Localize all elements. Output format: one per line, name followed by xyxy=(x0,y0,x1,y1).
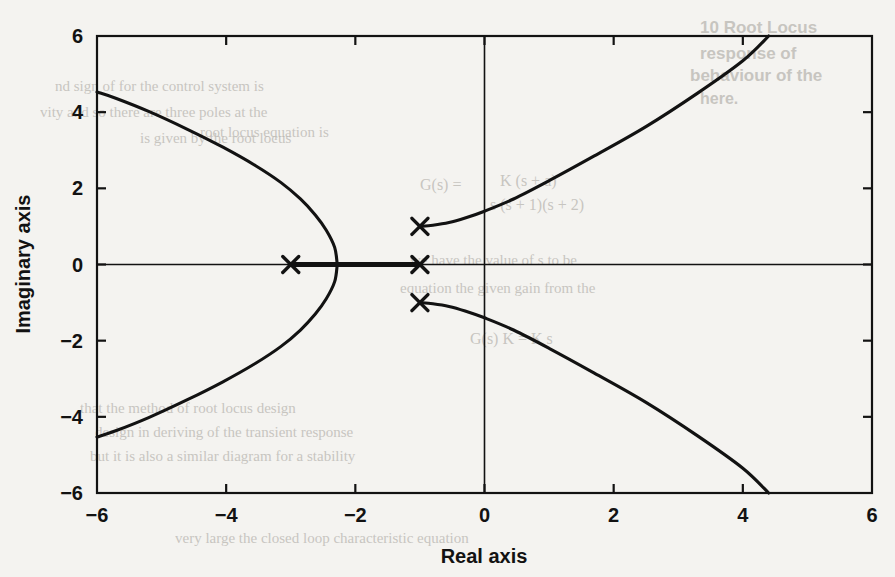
y-tick-label: 0 xyxy=(72,254,83,276)
locus-branch xyxy=(420,303,769,493)
y-tick-label: −6 xyxy=(60,482,83,504)
figure-page: 10 Root Locusresponse ofbehaviour of the… xyxy=(0,0,895,577)
x-tick-label: 0 xyxy=(479,504,490,526)
x-tick-label: 2 xyxy=(608,504,619,526)
locus-branch xyxy=(97,265,337,438)
y-tick-label: 6 xyxy=(72,25,83,47)
y-tick-label: −2 xyxy=(60,330,83,352)
x-tick-label: −4 xyxy=(215,504,239,526)
locus-branch xyxy=(97,92,337,265)
x-axis-title: Real axis xyxy=(441,545,528,567)
y-axis-title: Imaginary axis xyxy=(12,195,34,334)
tick-labels: −6−4−202466420−2−4−6 xyxy=(60,25,877,526)
y-tick-label: 2 xyxy=(72,177,83,199)
y-tick-label: 4 xyxy=(72,101,84,123)
y-tick-label: −4 xyxy=(60,406,84,428)
root-locus-figure: −6−4−202466420−2−4−6 Real axis Imaginary… xyxy=(0,0,895,577)
x-tick-label: −2 xyxy=(344,504,367,526)
locus-branch xyxy=(420,36,769,226)
root-locus-svg: −6−4−202466420−2−4−6 Real axis Imaginary… xyxy=(0,0,895,577)
zero-axis-lines xyxy=(97,36,872,493)
x-tick-label: −6 xyxy=(86,504,109,526)
x-tick-label: 4 xyxy=(737,504,749,526)
x-tick-label: 6 xyxy=(866,504,877,526)
